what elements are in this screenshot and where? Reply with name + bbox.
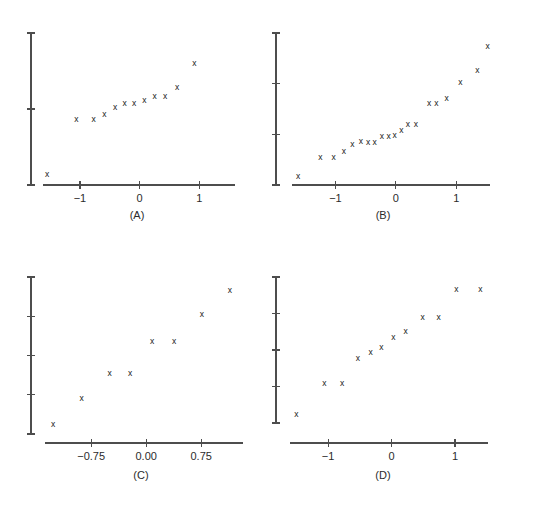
data-point-marker: x [399,125,404,135]
data-point-marker: x [458,77,463,87]
data-point-marker: x [478,284,483,294]
x-tick-label: −1 [322,450,335,462]
scatter-panel-d: −101xxxxxxxxxxxx(D) [267,255,534,510]
data-point-marker: x [373,137,378,147]
data-point-marker: x [356,353,361,363]
x-tick-label: 0.00 [135,450,156,462]
data-point-marker: x [172,336,177,346]
data-point-marker: x [359,136,364,146]
panel-caption: (D) [375,469,390,481]
data-point-marker: x [414,119,419,129]
x-tick-label: −1 [329,192,342,204]
data-point-marker: x [380,131,385,141]
x-tick-label: −0.75 [77,450,105,462]
data-point-marker: x [294,409,299,419]
data-point-marker: x [152,91,157,101]
data-point-marker: x [379,342,384,352]
data-point-marker: x [142,95,147,105]
data-point-marker: x [192,58,197,68]
x-tick-label: 1 [452,450,458,462]
data-point-marker: x [128,368,133,378]
data-point-marker: x [102,109,107,119]
data-point-marker: x [421,312,426,322]
x-tick-label: 0 [393,192,399,204]
x-tick-label: 1 [196,192,202,204]
data-point-marker: x [175,82,180,92]
data-point-marker: x [406,119,411,129]
data-point-marker: x [342,146,347,156]
data-point-marker: x [107,368,112,378]
data-point-marker: x [485,41,490,51]
data-point-marker: x [454,284,459,294]
data-point-marker: x [332,152,337,162]
data-point-marker: x [403,326,408,336]
data-point-marker: x [123,98,128,108]
data-point-marker: x [150,336,155,346]
data-point-marker: x [366,137,371,147]
data-point-marker: x [444,93,449,103]
data-point-marker: x [113,102,118,112]
panel-caption: (C) [133,469,148,481]
data-point-marker: x [296,171,301,181]
x-tick-label: 1 [453,192,459,204]
data-point-marker: x [434,98,439,108]
data-point-marker: x [92,114,97,124]
panel-caption: (A) [130,209,145,221]
data-point-marker: x [368,347,373,357]
data-point-marker: x [340,378,345,388]
x-tick-label: −1 [74,192,87,204]
x-tick-label: 0 [388,450,394,462]
data-point-marker: x [132,98,137,108]
data-point-marker: x [436,312,441,322]
data-point-marker: x [386,131,391,141]
scatter-panel-c: −0.750.000.75xxxxxxxx(C) [0,255,267,510]
scatter-panel-b: −101xxxxxxxxxxxxxxxxxxxx(B) [267,0,534,255]
data-point-marker: x [200,309,205,319]
x-tick-label: 0.75 [190,450,211,462]
data-point-marker: x [322,378,327,388]
data-point-marker: x [45,169,50,179]
panel-caption: (B) [376,209,391,221]
data-point-marker: x [392,130,397,140]
data-point-marker: x [74,114,79,124]
x-tick-label: 0 [137,192,143,204]
data-point-marker: x [350,139,355,149]
four-panel-scatter-figure: −101xxxxxxxxxxxx(A)−101xxxxxxxxxxxxxxxxx… [0,0,534,510]
data-point-marker: x [318,152,323,162]
data-point-marker: x [228,285,233,295]
scatter-panel-a: −101xxxxxxxxxxxx(A) [0,0,267,255]
data-point-marker: x [163,91,168,101]
data-point-marker: x [475,65,480,75]
data-point-marker: x [80,393,85,403]
data-point-marker: x [391,332,396,342]
data-point-marker: x [427,98,432,108]
data-point-marker: x [51,419,56,429]
